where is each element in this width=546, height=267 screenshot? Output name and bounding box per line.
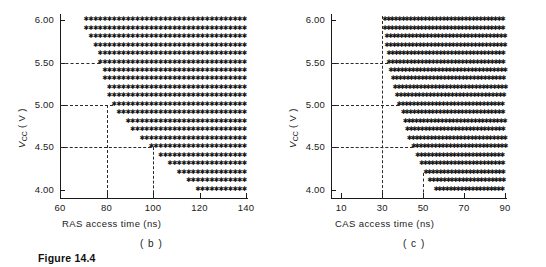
data-point bbox=[158, 85, 162, 89]
data-point bbox=[237, 17, 241, 21]
data-point bbox=[237, 161, 241, 165]
y-tick-label-b-2: 5.00 bbox=[22, 99, 54, 110]
data-point bbox=[158, 76, 162, 80]
data-point bbox=[135, 43, 139, 47]
data-point bbox=[163, 68, 167, 72]
data-point bbox=[195, 51, 199, 55]
data-point bbox=[214, 85, 218, 89]
data-point bbox=[111, 26, 115, 30]
data-point bbox=[177, 170, 181, 174]
data-point bbox=[98, 51, 102, 55]
data-point bbox=[121, 68, 125, 72]
data-point bbox=[153, 93, 157, 97]
data-point bbox=[88, 17, 92, 21]
data-point bbox=[107, 93, 111, 97]
data-point bbox=[144, 26, 148, 30]
data-point bbox=[135, 119, 139, 123]
data-point bbox=[228, 17, 232, 21]
panel-c: CAS access time (ns) VCC ( V ) ( c ) 4.0… bbox=[273, 0, 546, 267]
guide-line-h-c-2 bbox=[331, 147, 413, 148]
data-point bbox=[237, 153, 241, 157]
data-point bbox=[181, 170, 185, 174]
data-point bbox=[200, 34, 204, 38]
data-point bbox=[500, 187, 504, 191]
data-point bbox=[501, 51, 505, 55]
data-point bbox=[204, 187, 208, 191]
data-point bbox=[125, 51, 129, 55]
data-point bbox=[200, 144, 204, 148]
data-point bbox=[177, 127, 181, 131]
data-point bbox=[153, 127, 157, 131]
data-point bbox=[102, 34, 106, 38]
guide-line-h-b-1 bbox=[60, 105, 113, 106]
data-point bbox=[214, 110, 218, 114]
data-point bbox=[149, 136, 153, 140]
x-axis-title-c: CAS access time (ns) bbox=[335, 218, 434, 229]
data-point bbox=[223, 60, 227, 64]
data-point bbox=[200, 60, 204, 64]
data-point bbox=[177, 161, 181, 165]
data-point bbox=[163, 17, 167, 21]
data-point bbox=[223, 43, 227, 47]
data-point bbox=[163, 153, 167, 157]
data-point bbox=[204, 110, 208, 114]
x-tick-label-c-2: 50 bbox=[405, 202, 441, 213]
y-tick-b-4 bbox=[60, 20, 65, 21]
data-point bbox=[214, 102, 218, 106]
data-point bbox=[218, 76, 222, 80]
data-point bbox=[223, 51, 227, 55]
data-point bbox=[125, 102, 129, 106]
data-point bbox=[214, 161, 218, 165]
data-point bbox=[181, 51, 185, 55]
data-point bbox=[181, 34, 185, 38]
data-point bbox=[200, 102, 204, 106]
data-point bbox=[501, 170, 505, 174]
data-point bbox=[116, 93, 120, 97]
data-point bbox=[181, 161, 185, 165]
data-point bbox=[121, 34, 125, 38]
data-point bbox=[195, 85, 199, 89]
data-point bbox=[218, 102, 222, 106]
data-point bbox=[125, 17, 129, 21]
data-point bbox=[228, 144, 232, 148]
data-point bbox=[237, 26, 241, 30]
data-point bbox=[186, 17, 190, 21]
data-point bbox=[125, 43, 129, 47]
data-point bbox=[232, 68, 236, 72]
x-tick-b-3 bbox=[200, 193, 201, 198]
data-point bbox=[191, 153, 195, 157]
data-point bbox=[195, 76, 199, 80]
data-point bbox=[98, 17, 102, 21]
data-point bbox=[242, 153, 246, 157]
data-point bbox=[218, 136, 222, 140]
data-point bbox=[181, 102, 185, 106]
data-point bbox=[167, 43, 171, 47]
data-point bbox=[172, 144, 176, 148]
data-point bbox=[200, 76, 204, 80]
guide-line-v-b-1 bbox=[153, 147, 154, 198]
data-point bbox=[181, 85, 185, 89]
data-point bbox=[163, 85, 167, 89]
x-tick-c-3 bbox=[464, 193, 465, 198]
data-point bbox=[135, 102, 139, 106]
data-point bbox=[139, 93, 143, 97]
data-point bbox=[237, 68, 241, 72]
data-point bbox=[195, 102, 199, 106]
data-point bbox=[158, 127, 162, 131]
data-point bbox=[153, 119, 157, 123]
data-point bbox=[218, 161, 222, 165]
data-point bbox=[121, 85, 125, 89]
data-point bbox=[177, 102, 181, 106]
data-point bbox=[144, 43, 148, 47]
data-point bbox=[181, 127, 185, 131]
data-point bbox=[232, 127, 236, 131]
data-point bbox=[153, 68, 157, 72]
data-point bbox=[223, 85, 227, 89]
data-point bbox=[88, 26, 92, 30]
data-point bbox=[195, 161, 199, 165]
data-point bbox=[237, 110, 241, 114]
data-point bbox=[135, 76, 139, 80]
data-point bbox=[191, 127, 195, 131]
data-point bbox=[228, 34, 232, 38]
data-point bbox=[218, 68, 222, 72]
